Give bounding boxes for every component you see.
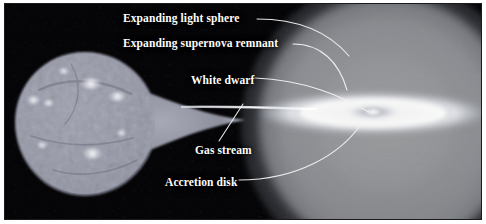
label-accretion-disk: Accretion disk	[165, 176, 237, 188]
diagram-scene: Expanding light sphere Expanding superno…	[4, 3, 482, 220]
label-expanding-supernova-remnant: Expanding supernova remnant	[123, 37, 278, 49]
leader-gas-stream	[219, 104, 243, 141]
figure-container: Expanding light sphere Expanding superno…	[0, 0, 486, 224]
label-gas-stream: Gas stream	[195, 144, 252, 156]
label-expanding-light-sphere: Expanding light sphere	[123, 12, 239, 24]
leader-white-dwarf	[255, 78, 369, 112]
leader-accretion-disk	[239, 124, 361, 180]
label-white-dwarf: White dwarf	[191, 74, 254, 86]
leader-supernova-remnant	[293, 44, 347, 90]
